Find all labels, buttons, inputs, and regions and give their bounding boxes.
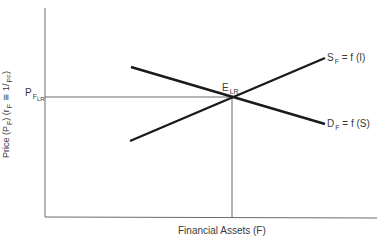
demand-curve-label: DF = f (S) bbox=[327, 119, 370, 129]
diagram-canvas bbox=[0, 0, 383, 245]
demand-curve bbox=[131, 67, 325, 124]
x-axis bbox=[45, 217, 377, 218]
supply-curve bbox=[130, 58, 325, 141]
y-axis-label: Price (PF) (rF ≅ 1/PF) bbox=[1, 71, 11, 158]
supply-curve-label: SF = f (I) bbox=[327, 53, 365, 63]
equilibrium-point-label: ELR bbox=[222, 83, 239, 93]
x-axis-label: Financial Assets (F) bbox=[178, 225, 266, 236]
equilibrium-price-label: PFLR bbox=[25, 88, 45, 98]
